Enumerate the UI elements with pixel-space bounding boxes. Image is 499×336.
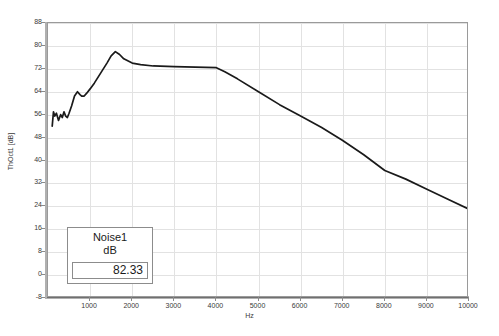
y-tick: 80 (20, 41, 42, 49)
x-tick-label: 2000 (111, 302, 151, 309)
x-tick-label: 5000 (238, 302, 278, 309)
x-tick-mark (89, 297, 90, 301)
y-axis-title: ThOct1 [dB] (7, 112, 14, 192)
y-tick: 72 (20, 64, 42, 72)
x-axis-title: Hz (0, 312, 499, 319)
x-tick-label: 4000 (195, 302, 235, 309)
x-tick-mark (215, 297, 216, 301)
y-tick: 56 (20, 110, 42, 118)
x-tick-label: 7000 (322, 302, 362, 309)
legend-value: 82.33 (73, 263, 147, 278)
y-tick-mark (41, 137, 45, 138)
x-tick-mark (468, 297, 469, 301)
y-tick: -8 (20, 293, 42, 301)
x-tick-label: 10000 (448, 302, 488, 309)
y-tick: 64 (20, 87, 42, 95)
x-tick-mark (384, 297, 385, 301)
y-tick-mark (41, 22, 45, 23)
x-tick-mark (173, 297, 174, 301)
legend-series-name: Noise1 (68, 231, 152, 244)
y-tick-mark (41, 228, 45, 229)
y-tick-mark (41, 251, 45, 252)
y-tick: 88 (20, 18, 42, 26)
y-tick: 24 (20, 201, 42, 209)
legend-value-box[interactable]: 82.33 (72, 262, 148, 279)
y-tick-mark (41, 297, 45, 298)
x-tick-label: 6000 (280, 302, 320, 309)
chart-container: -80816243240485664728088 100020003000400… (0, 0, 499, 336)
y-tick: 16 (20, 224, 42, 232)
x-tick-mark (342, 297, 343, 301)
y-tick: 40 (20, 156, 42, 164)
x-tick-label: 8000 (364, 302, 404, 309)
x-tick-label: 1000 (69, 302, 109, 309)
x-tick-mark (258, 297, 259, 301)
y-tick-mark (41, 160, 45, 161)
x-tick-mark (131, 297, 132, 301)
y-tick-mark (41, 68, 45, 69)
y-tick-mark (41, 274, 45, 275)
curve-path (52, 52, 468, 210)
y-tick-mark (41, 114, 45, 115)
y-tick-mark (41, 91, 45, 92)
x-tick-mark (300, 297, 301, 301)
x-tick-mark (426, 297, 427, 301)
y-tick: 48 (20, 133, 42, 141)
y-tick: 8 (20, 247, 42, 255)
y-tick: 32 (20, 178, 42, 186)
y-tick-mark (41, 205, 45, 206)
x-tick-label: 9000 (406, 302, 446, 309)
x-tick-label: 3000 (153, 302, 193, 309)
legend-box[interactable]: Noise1 dB 82.33 (67, 227, 153, 284)
y-tick-mark (41, 45, 45, 46)
y-tick: 0 (20, 270, 42, 278)
y-tick-mark (41, 182, 45, 183)
legend-unit: dB (68, 244, 152, 257)
